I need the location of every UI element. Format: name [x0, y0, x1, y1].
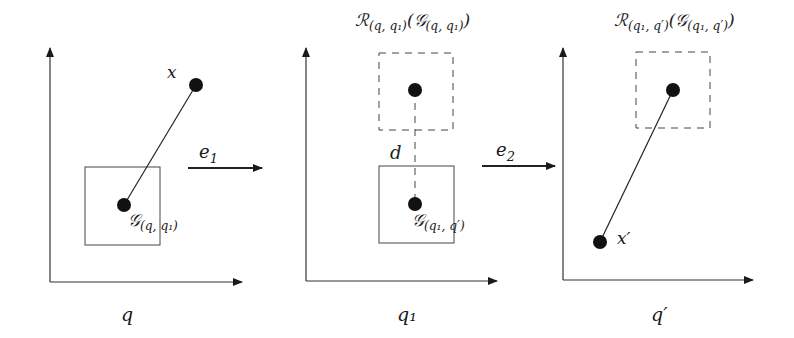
projection-title: ℛ(q₁, q′)(𝒢(q₁, q′)) [614, 12, 735, 33]
axis-label-q-prime: q′ [651, 305, 667, 324]
title-close: ) [463, 10, 470, 30]
title-arg-sub: (q, q₁) [426, 19, 464, 33]
transition-label-sub: 2 [507, 149, 515, 164]
axis-label-q1: q₁ [397, 305, 417, 324]
title-sub: (q₁, q′) [628, 19, 669, 33]
title-close: ) [728, 10, 735, 30]
title-arg-sub: (q₁, q′) [687, 19, 728, 33]
title-arg-main: (𝒢 [407, 10, 426, 30]
projection-title: ℛ(q, q₁)(𝒢(q, q₁)) [355, 12, 470, 33]
point-projected [666, 83, 680, 97]
title-arg-main: (𝒢 [669, 10, 688, 30]
diagram: x 𝒢(q, q₁) q e1 ℛ(q, q₁)(𝒢(q, q₁)) d 𝒢(q… [0, 0, 794, 338]
point-x-prime [593, 235, 607, 249]
title-main: ℛ [355, 10, 369, 30]
distance-label-d: d [390, 144, 402, 162]
title-sub: (q, q₁) [369, 19, 407, 33]
region-label-sub: (q₁, q′) [424, 219, 465, 233]
region-label-main: 𝒢 [128, 210, 140, 230]
point-label-x-prime: x′ [617, 230, 630, 247]
region-label-g: 𝒢(q₁, q′) [412, 212, 465, 233]
diagram-canvas [0, 0, 794, 338]
point-x [189, 78, 203, 92]
axis-label-q: q [121, 305, 133, 324]
region-label-sub: (q, q₁) [140, 219, 178, 233]
region-label-g: 𝒢(q, q₁) [128, 212, 178, 233]
transition-label-e1: e1 [199, 143, 218, 165]
panel-q-prime [563, 48, 753, 280]
panel-q1 [306, 48, 497, 281]
transition-label-sub: 1 [210, 151, 218, 166]
point-g [408, 197, 422, 211]
point-projected [408, 83, 422, 97]
transition-label-main: e [199, 141, 210, 162]
transition-label-e2: e2 [496, 141, 515, 163]
region-label-main: 𝒢 [412, 210, 424, 230]
title-main: ℛ [614, 10, 628, 30]
point-label-x: x [167, 64, 177, 81]
transition-label-main: e [496, 139, 507, 160]
